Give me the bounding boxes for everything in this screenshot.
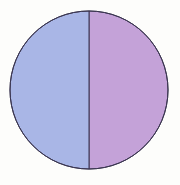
pie-slice-right [89, 11, 168, 169]
pie-slices [10, 11, 168, 169]
pie-slice-left [10, 11, 89, 169]
pie-chart [0, 0, 180, 185]
